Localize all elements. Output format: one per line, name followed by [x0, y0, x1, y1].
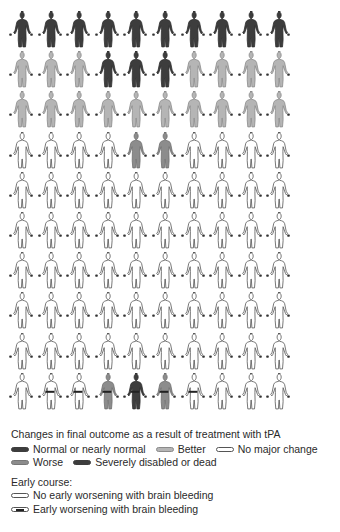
person-icon — [178, 332, 208, 372]
person-icon — [263, 50, 293, 90]
person-icon — [263, 291, 293, 331]
legend-row-2: Worse Severely disabled or dead — [11, 456, 336, 470]
person-icon — [235, 131, 265, 171]
legend-label-none: No major change — [238, 443, 318, 457]
person-icon — [63, 90, 93, 130]
person-icon — [92, 251, 122, 291]
person-icon — [6, 372, 36, 412]
person-icon — [6, 291, 36, 331]
person-icon — [149, 10, 179, 50]
legend-label-bleed: Early worsening with brain bleeding — [33, 503, 198, 517]
person-icon — [149, 211, 179, 251]
person-icon — [35, 372, 65, 412]
person-icon — [178, 372, 208, 412]
legend-item-bleed: Early worsening with brain bleeding — [11, 503, 336, 517]
person-icon — [235, 291, 265, 331]
person-icon — [206, 10, 236, 50]
person-icon — [120, 50, 150, 90]
person-icon — [235, 171, 265, 211]
person-icon — [263, 251, 293, 291]
person-icon — [235, 90, 265, 130]
person-icon — [35, 131, 65, 171]
person-icon — [92, 10, 122, 50]
early-course-title: Early course: — [11, 476, 336, 490]
person-icon — [178, 131, 208, 171]
person-icon — [6, 90, 36, 130]
person-icon — [120, 211, 150, 251]
person-icon — [35, 50, 65, 90]
person-icon — [92, 50, 122, 90]
person-icon — [35, 251, 65, 291]
legend-item-better: Better — [156, 443, 206, 457]
person-icon — [35, 171, 65, 211]
person-icon — [35, 332, 65, 372]
person-icon — [178, 171, 208, 211]
person-icon — [63, 10, 93, 50]
person-icon — [149, 251, 179, 291]
person-icon — [206, 251, 236, 291]
person-icon — [263, 372, 293, 412]
legend-label-no-bleed: No early worsening with brain bleeding — [33, 489, 213, 503]
legend: Changes in final outcome as a result of … — [11, 428, 336, 516]
person-icon — [235, 332, 265, 372]
person-icon — [149, 291, 179, 331]
person-icon — [120, 131, 150, 171]
person-icon — [206, 131, 236, 171]
person-icon — [263, 131, 293, 171]
person-icon — [178, 251, 208, 291]
person-icon — [178, 291, 208, 331]
person-icon — [63, 291, 93, 331]
legend-label-dead: Severely disabled or dead — [95, 456, 216, 470]
early-course-section: Early course: No early worsening with br… — [11, 476, 336, 517]
person-icon — [206, 50, 236, 90]
pictograph-grid — [6, 10, 298, 412]
person-icon — [63, 50, 93, 90]
person-icon — [206, 90, 236, 130]
person-icon — [263, 90, 293, 130]
person-icon — [235, 372, 265, 412]
person-icon — [92, 90, 122, 130]
person-icon — [206, 171, 236, 211]
worse-swatch-icon — [11, 460, 29, 465]
person-icon — [35, 10, 65, 50]
person-icon — [63, 372, 93, 412]
bleed-swatch-icon — [11, 507, 29, 512]
person-icon — [263, 10, 293, 50]
person-icon — [35, 211, 65, 251]
person-icon — [92, 332, 122, 372]
legend-item-none: No major change — [216, 443, 318, 457]
person-icon — [63, 131, 93, 171]
person-icon — [92, 171, 122, 211]
person-icon — [35, 291, 65, 331]
person-icon — [178, 90, 208, 130]
person-icon — [235, 211, 265, 251]
person-icon — [120, 10, 150, 50]
person-icon — [120, 372, 150, 412]
person-icon — [178, 50, 208, 90]
person-icon — [35, 90, 65, 130]
person-icon — [235, 251, 265, 291]
person-icon — [149, 332, 179, 372]
legend-label-normal: Normal or nearly normal — [33, 443, 146, 457]
person-icon — [263, 171, 293, 211]
person-icon — [92, 131, 122, 171]
person-icon — [6, 50, 36, 90]
person-icon — [6, 211, 36, 251]
legend-label-worse: Worse — [33, 456, 63, 470]
person-icon — [120, 291, 150, 331]
legend-item-normal: Normal or nearly normal — [11, 443, 146, 457]
no-bleed-swatch-icon — [11, 493, 29, 498]
person-icon — [263, 211, 293, 251]
legend-label-better: Better — [178, 443, 206, 457]
person-icon — [206, 211, 236, 251]
person-icon — [178, 211, 208, 251]
person-icon — [92, 372, 122, 412]
person-icon — [149, 372, 179, 412]
person-icon — [92, 291, 122, 331]
person-icon — [6, 131, 36, 171]
person-icon — [178, 10, 208, 50]
person-icon — [149, 171, 179, 211]
person-icon — [92, 211, 122, 251]
person-icon — [120, 171, 150, 211]
legend-item-worse: Worse — [11, 456, 63, 470]
